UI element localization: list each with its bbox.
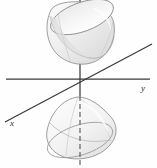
y-axis-label: y [140, 83, 145, 93]
math-figure-canvas: x y [0, 0, 157, 168]
hyperboloid-two-sheets-diagram: x y [0, 0, 157, 168]
x-axis-label: x [9, 118, 14, 128]
